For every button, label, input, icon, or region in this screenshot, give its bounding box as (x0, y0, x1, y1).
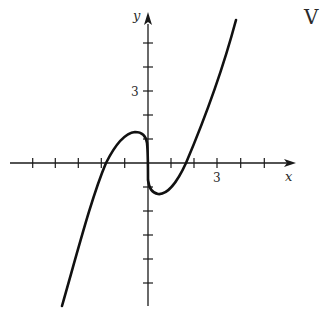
y-axis-label: y (132, 8, 141, 23)
corner-label: V (303, 5, 319, 29)
x-tick-label-3: 3 (213, 171, 221, 185)
graph-figure: y x 3 3 V (0, 0, 320, 314)
y-tick-label-3: 3 (131, 85, 139, 99)
x-axis-label: x (285, 169, 293, 184)
y-axis-arrow-icon (144, 12, 152, 25)
x-axis (10, 158, 296, 168)
